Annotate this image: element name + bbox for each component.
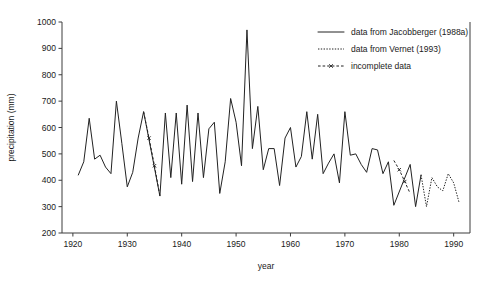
y-tick-label: 400: [42, 175, 56, 185]
series-vernet: [421, 174, 459, 207]
series-jacobberger: [78, 30, 421, 207]
y-tick-label: 900: [42, 43, 56, 53]
y-axis-label: precipitation (mm): [6, 93, 16, 161]
y-tick-label: 600: [42, 123, 56, 133]
legend-label: data from Jacobberger (1988a): [351, 27, 468, 37]
y-tick-label: 500: [42, 149, 56, 159]
legend-label: incomplete data: [351, 61, 411, 71]
y-tick-label: 300: [42, 202, 56, 212]
x-tick-label: 1990: [444, 239, 463, 249]
data-series-layer: [78, 30, 459, 207]
series-incomplete-data: [394, 160, 410, 193]
y-axis-ticks: 2003004005006007008009001000: [37, 17, 62, 238]
x-tick-label: 1950: [227, 239, 246, 249]
y-tick-label: 800: [42, 70, 56, 80]
chart-figure: 2003004005006007008009001000 19201930194…: [0, 0, 502, 292]
x-axis-ticks: 19201930194019501960197019801990: [63, 233, 463, 249]
x-tick-label: 1930: [118, 239, 137, 249]
precipitation-line-chart: 2003004005006007008009001000 19201930194…: [0, 0, 502, 292]
x-tick-label: 1980: [390, 239, 409, 249]
chart-legend: data from Jacobberger (1988a)data from V…: [318, 27, 468, 71]
y-tick-label: 1000: [37, 17, 56, 27]
x-axis-label: year: [258, 261, 275, 271]
y-tick-label: 200: [42, 228, 56, 238]
x-tick-label: 1920: [63, 239, 82, 249]
x-tick-label: 1970: [335, 239, 354, 249]
x-tick-label: 1940: [172, 239, 191, 249]
y-tick-label: 700: [42, 96, 56, 106]
x-tick-label: 1960: [281, 239, 300, 249]
legend-label: data from Vernet (1993): [351, 44, 441, 54]
